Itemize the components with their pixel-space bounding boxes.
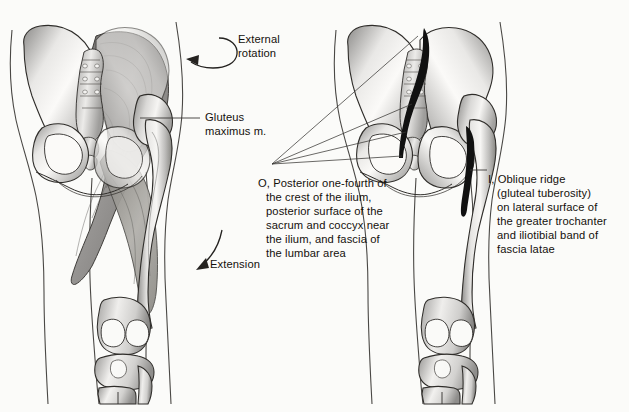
insertion-rest: (gluteal tuberosity) on lateral surface … bbox=[488, 186, 628, 256]
insertion-first-line: I, Oblique ridge bbox=[488, 173, 565, 185]
insertion-prefix: I, bbox=[488, 173, 498, 185]
panel-left-muscle-view bbox=[10, 22, 182, 404]
label-extension: Extension bbox=[210, 257, 260, 271]
insertion-line1: Oblique ridge bbox=[498, 173, 566, 185]
label-gluteus-maximus: Gluteus maximus m. bbox=[205, 110, 266, 138]
right-knee-joint bbox=[419, 297, 478, 404]
origin-first-line: O, Posterior one-fourth of bbox=[258, 177, 387, 189]
label-external-rotation: External rotation bbox=[238, 32, 280, 60]
origin-line1: Posterior one-fourth of bbox=[273, 177, 387, 189]
label-origin: O, Posterior one-fourth of the crest of … bbox=[258, 162, 408, 274]
external-rotation-arrow bbox=[186, 38, 237, 68]
left-knee-joint bbox=[95, 297, 154, 404]
origin-prefix: O, bbox=[258, 177, 273, 189]
origin-rest: the crest of the ilium, posterior surfac… bbox=[258, 190, 408, 260]
label-insertion: I, Oblique ridge (gluteal tuberosity) on… bbox=[488, 158, 628, 270]
